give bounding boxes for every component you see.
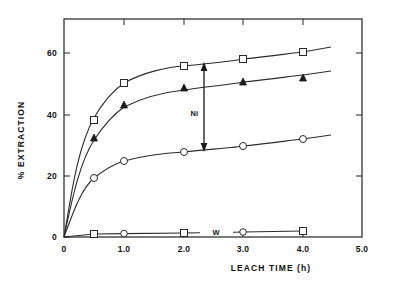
- y-tick-label-40: 40: [47, 110, 57, 120]
- x-tick-label-4: 4.0: [297, 244, 310, 254]
- w-curve-annotation: W: [212, 228, 220, 237]
- data-point-marker: [240, 143, 247, 150]
- chart-figure: 0 20 40 60 0 1.0 2.0 3.0 4.0 5.0 LEACH T…: [0, 0, 399, 283]
- series-w: [64, 228, 307, 238]
- series-ni-lower-line: [64, 135, 331, 237]
- series-ni-upper: [64, 47, 331, 237]
- data-point-marker: [300, 228, 307, 235]
- series-ni-lower: [64, 135, 331, 237]
- data-point-marker: [240, 229, 247, 236]
- ni-annotation-label: Ni: [191, 109, 199, 118]
- data-point-marker: [91, 134, 98, 141]
- y-axis-title: % EXTRACTION: [16, 101, 26, 179]
- x-axis-ticks: [124, 19, 303, 237]
- y-tick-label-0: 0: [52, 232, 57, 242]
- series-ni-upper-line: [64, 47, 331, 237]
- data-point-marker: [300, 49, 307, 56]
- data-point-marker: [91, 117, 98, 124]
- w-annotation-label: W: [212, 228, 220, 237]
- plot-frame: [64, 19, 362, 237]
- x-tick-label-2: 2.0: [178, 244, 191, 254]
- series-ni-middle: [64, 71, 331, 237]
- data-point-marker: [240, 56, 247, 63]
- data-point-marker: [300, 136, 307, 143]
- x-tick-label-5: 5.0: [356, 244, 369, 254]
- y-axis-ticks: [64, 53, 362, 237]
- data-point-marker: [91, 175, 98, 182]
- data-point-marker: [181, 149, 188, 156]
- data-point-marker: [121, 80, 128, 87]
- data-point-marker: [121, 230, 128, 237]
- ni-range-annotation: Ni: [191, 62, 208, 152]
- x-axis-title: LEACH TIME (h): [231, 263, 312, 273]
- x-tick-label-3: 3.0: [237, 244, 250, 254]
- data-point-marker: [181, 63, 188, 70]
- x-tick-label-1: 1.0: [118, 244, 131, 254]
- data-point-marker: [181, 230, 188, 237]
- data-point-marker: [121, 158, 128, 165]
- x-tick-label-0: 0: [61, 244, 66, 254]
- y-tick-label-20: 20: [47, 171, 57, 181]
- data-point-marker: [121, 101, 128, 108]
- y-tick-label-60: 60: [47, 48, 57, 58]
- series-ni-middle-line: [64, 71, 331, 237]
- extraction-vs-leach-time-chart: 0 20 40 60 0 1.0 2.0 3.0 4.0 5.0 LEACH T…: [0, 0, 399, 283]
- data-point-marker: [91, 231, 98, 238]
- data-point-marker: [181, 84, 188, 91]
